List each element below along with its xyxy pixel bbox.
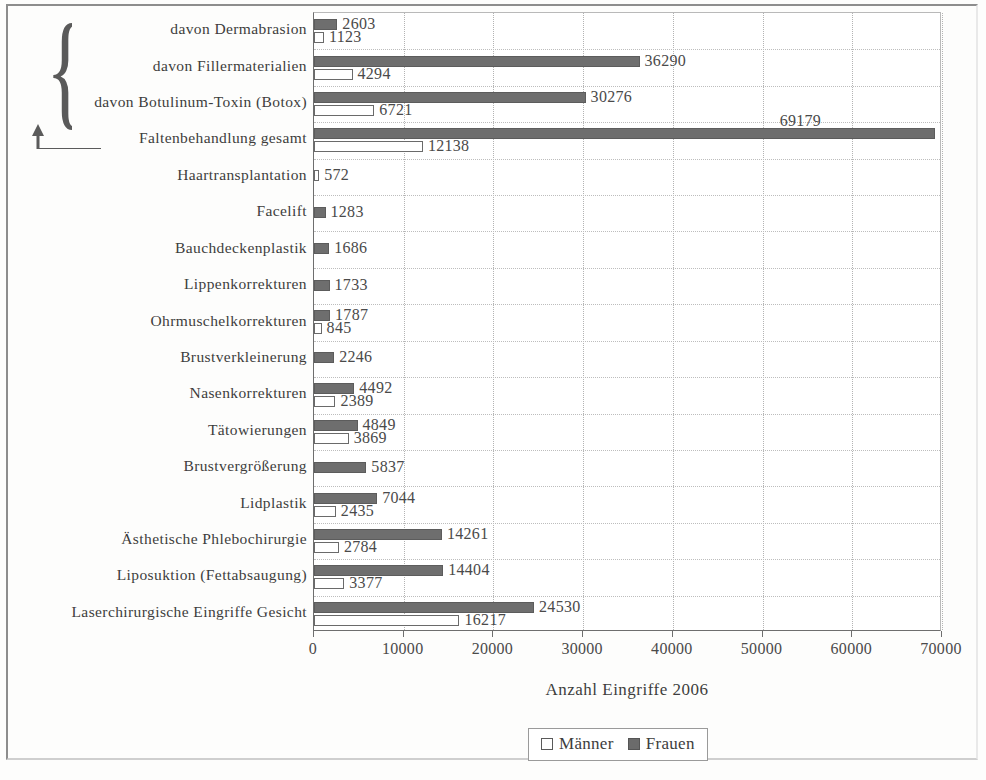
bar-frauen bbox=[314, 128, 935, 139]
bar-value-label-maenner: 3377 bbox=[349, 575, 382, 591]
category-label: Lidplastik bbox=[7, 495, 307, 511]
bar-group: 2453016217 bbox=[314, 596, 940, 632]
bar-group: 302766721 bbox=[314, 86, 940, 122]
bar-value-label-frauen: 36290 bbox=[645, 53, 687, 69]
bar-group: 1787845 bbox=[314, 304, 940, 340]
bar-value-label-maenner: 12138 bbox=[428, 138, 470, 154]
x-tick-label: 70000 bbox=[920, 640, 962, 658]
bar-group: 26031123 bbox=[314, 13, 940, 49]
chart-legend: Männer Frauen bbox=[528, 728, 708, 761]
x-tick-label: 0 bbox=[309, 640, 317, 658]
annotation-leader-line bbox=[38, 148, 101, 149]
bar-value-label-maenner: 2389 bbox=[340, 393, 373, 409]
bar-group: 1733 bbox=[314, 268, 940, 304]
chart-page: davon Dermabrasiondavon Fillermaterialie… bbox=[0, 0, 986, 780]
bar-maenner bbox=[314, 141, 423, 152]
bar-value-label-maenner: 16217 bbox=[464, 612, 506, 628]
x-tick-label: 60000 bbox=[831, 640, 873, 658]
x-tick-label: 10000 bbox=[382, 640, 424, 658]
category-label: Facelift bbox=[7, 203, 307, 219]
category-label: Ästhetische Phlebochirurgie bbox=[7, 531, 307, 547]
bar-value-label-frauen: 69179 bbox=[780, 113, 822, 129]
bar-value-label-maenner: 1123 bbox=[329, 29, 362, 45]
bar-value-label-frauen: 14261 bbox=[447, 526, 489, 542]
bar-value-label-maenner: 2784 bbox=[344, 539, 377, 555]
x-tick-label: 40000 bbox=[651, 640, 693, 658]
bar-maenner bbox=[314, 69, 353, 80]
category-label: Nasenkorrekturen bbox=[7, 385, 307, 401]
bar-value-label-frauen: 14404 bbox=[448, 562, 490, 578]
bar-maenner bbox=[314, 615, 459, 626]
legend-label-frauen: Frauen bbox=[646, 734, 695, 754]
bar-maenner bbox=[314, 433, 349, 444]
bar-frauen bbox=[314, 462, 366, 473]
bar-value-label-frauen: 7044 bbox=[382, 490, 415, 506]
brace-glyph: { bbox=[46, 14, 62, 130]
bar-group: 48493869 bbox=[314, 414, 940, 450]
bar-maenner bbox=[314, 578, 344, 589]
bar-value-label-frauen: 1733 bbox=[335, 277, 368, 293]
x-tickmark bbox=[582, 631, 583, 637]
category-label: Liposuktion (Fettabsaugung) bbox=[7, 567, 307, 583]
legend-swatch-maenner bbox=[541, 738, 553, 750]
bar-value-label-maenner: 6721 bbox=[379, 102, 412, 118]
bar-frauen bbox=[314, 207, 326, 218]
plot-area: 2603112336290429430276672169179121385721… bbox=[313, 12, 941, 631]
bar-group: 44922389 bbox=[314, 377, 940, 413]
bar-maenner bbox=[314, 396, 335, 407]
bar-value-label-maenner: 2435 bbox=[341, 503, 374, 519]
x-tickmark bbox=[762, 631, 763, 637]
x-tick-label: 50000 bbox=[741, 640, 783, 658]
bar-group: 142612784 bbox=[314, 523, 940, 559]
bar-value-label-frauen: 24530 bbox=[539, 599, 581, 615]
legend-label-maenner: Männer bbox=[559, 734, 614, 754]
bar-maenner bbox=[314, 170, 319, 181]
category-label: Laserchirurgische Eingriffe Gesicht bbox=[7, 604, 307, 620]
bar-frauen bbox=[314, 420, 358, 431]
bar-maenner bbox=[314, 32, 324, 43]
bar-value-label-frauen: 1686 bbox=[334, 240, 367, 256]
category-label: Brustvergrößerung bbox=[7, 458, 307, 474]
bar-group: 362904294 bbox=[314, 49, 940, 85]
x-tick-label: 30000 bbox=[561, 640, 603, 658]
category-label: Ohrmuschelkorrekturen bbox=[7, 313, 307, 329]
x-tickmark bbox=[403, 631, 404, 637]
category-label: Brustverkleinerung bbox=[7, 349, 307, 365]
bar-group: 2246 bbox=[314, 341, 940, 377]
bar-value-label-frauen: 2246 bbox=[339, 349, 372, 365]
x-tickmark bbox=[851, 631, 852, 637]
curly-brace-annotation: { bbox=[46, 14, 72, 136]
bar-group: 5837 bbox=[314, 450, 940, 486]
category-label: Haartransplantation bbox=[7, 167, 307, 183]
x-tickmark bbox=[313, 631, 314, 637]
category-label: Tätowierungen bbox=[7, 422, 307, 438]
bar-frauen bbox=[314, 243, 329, 254]
bar-value-label-maenner: 3869 bbox=[354, 430, 387, 446]
category-label: Lippenkorrekturen bbox=[7, 276, 307, 292]
x-tick-label: 20000 bbox=[472, 640, 514, 658]
bar-value-label-frauen: 30276 bbox=[591, 89, 633, 105]
category-label: Bauchdeckenplastik bbox=[7, 240, 307, 256]
bar-group: 1283 bbox=[314, 195, 940, 231]
bar-group: 70442435 bbox=[314, 486, 940, 522]
up-arrow-icon bbox=[30, 122, 46, 150]
bar-frauen bbox=[314, 352, 334, 363]
legend-item-frauen: Frauen bbox=[628, 734, 695, 754]
x-tickmark bbox=[672, 631, 673, 637]
bar-maenner bbox=[314, 105, 374, 116]
bar-group: 6917912138 bbox=[314, 122, 940, 158]
bar-value-label-maenner: 4294 bbox=[358, 66, 391, 82]
bar-value-label-maenner: 845 bbox=[327, 320, 352, 336]
legend-item-maenner: Männer bbox=[541, 734, 614, 754]
bar-maenner bbox=[314, 542, 339, 553]
bar-value-label-frauen: 1283 bbox=[331, 204, 364, 220]
x-tickmark bbox=[941, 631, 942, 637]
bar-group: 1686 bbox=[314, 231, 940, 267]
bar-value-label-maenner: 572 bbox=[324, 167, 349, 183]
legend-swatch-frauen bbox=[628, 738, 640, 750]
bar-group: 572 bbox=[314, 159, 940, 195]
vertical-gridline bbox=[942, 13, 943, 630]
x-axis-title: Anzahl Eingriffe 2006 bbox=[313, 680, 941, 700]
bar-frauen bbox=[314, 280, 330, 291]
bar-maenner bbox=[314, 506, 336, 517]
